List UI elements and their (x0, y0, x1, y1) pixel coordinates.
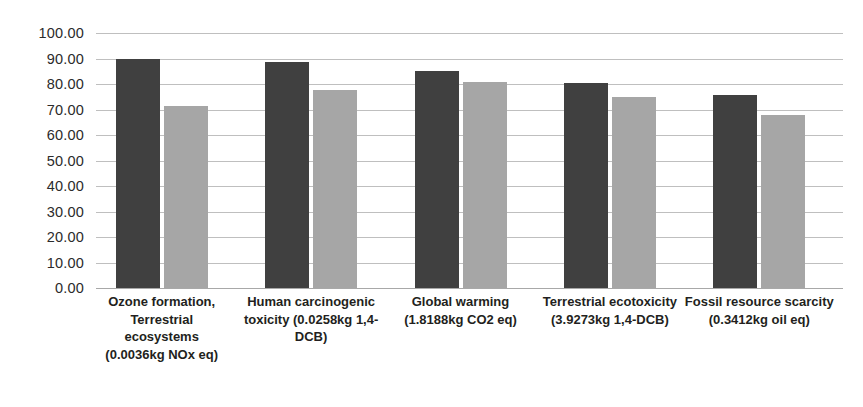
bar-series2 (761, 115, 805, 288)
y-axis-tick-label: 70.00 (0, 102, 84, 118)
y-axis: 100.0090.0080.0070.0060.0050.0040.0030.0… (0, 0, 92, 300)
x-axis-category-label: Ozone formation, Terrestrial ecosystems … (96, 293, 228, 363)
bar-series1 (415, 71, 459, 288)
y-axis-tick-label: 60.00 (0, 127, 84, 143)
x-axis-line (96, 288, 843, 289)
bar-series2 (463, 82, 507, 288)
y-axis-tick-label: 10.00 (0, 255, 84, 271)
bar-series1 (564, 83, 608, 288)
x-axis-category-label: Human carcinogenic toxicity (0.0258kg 1,… (241, 293, 381, 346)
plot-area (96, 33, 843, 288)
x-axis-category-label: Terrestrial ecotoxicity (3.9273kg 1,4-DC… (540, 293, 680, 328)
x-axis-category-label: Global warming (1.8188kg CO2 eq) (391, 293, 531, 328)
bar-series2 (313, 90, 357, 288)
bar-series1 (265, 62, 309, 288)
bar-series2 (612, 97, 656, 288)
y-axis-tick-label: 80.00 (0, 76, 84, 92)
y-axis-tick-label: 90.00 (0, 51, 84, 67)
bar-series1 (713, 95, 757, 288)
bars (96, 33, 843, 288)
y-axis-tick-label: 40.00 (0, 178, 84, 194)
y-axis-tick-label: 100.00 (0, 25, 84, 41)
x-axis-category-label: Fossil resource scarcity (0.3412kg oil e… (684, 293, 834, 328)
bar-series1 (116, 59, 160, 289)
y-axis-tick-label: 20.00 (0, 229, 84, 245)
bar-series2 (164, 106, 208, 288)
x-axis-labels: Ozone formation, Terrestrial ecosystems … (96, 293, 843, 403)
y-axis-tick-label: 30.00 (0, 204, 84, 220)
y-axis-tick-label: 0.00 (0, 280, 84, 296)
y-axis-tick-label: 50.00 (0, 153, 84, 169)
bar-chart: 100.0090.0080.0070.0060.0050.0040.0030.0… (0, 0, 863, 407)
